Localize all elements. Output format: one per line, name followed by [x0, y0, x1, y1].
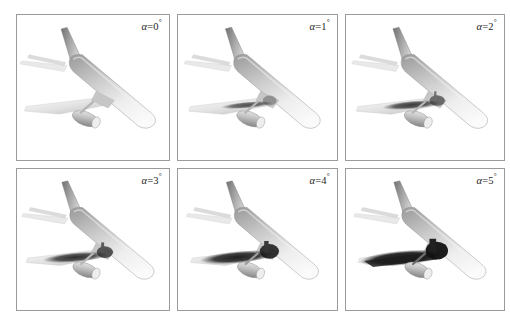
aircraft-geometry: [178, 169, 337, 310]
degree-sign: °: [327, 18, 330, 27]
far-wing-group: [352, 55, 399, 72]
panel-label-alpha-4: α=4°: [310, 172, 331, 186]
panel-alpha-2: α=2°: [345, 14, 505, 161]
aircraft-geometry: [346, 169, 504, 310]
degree-sign: °: [494, 18, 497, 27]
panel-alpha-3: α=3°: [16, 168, 170, 311]
degree-sign: °: [159, 172, 162, 181]
wing-body-junction-shock: [263, 96, 277, 106]
panel-label-alpha-0: α=0°: [142, 18, 163, 32]
far-wing-group: [20, 55, 67, 72]
panel-label-alpha-3: α=3°: [142, 172, 163, 186]
degree-sign: °: [494, 172, 497, 181]
panel-alpha-5: α=5°: [345, 168, 505, 311]
aircraft-geometry: [17, 169, 169, 310]
aircraft-geometry: [346, 15, 504, 160]
far-wing-group: [354, 208, 400, 224]
panel-alpha-4: α=4°: [177, 168, 338, 311]
panel-alpha-0: α=0°: [16, 14, 170, 161]
far-wing-group: [184, 55, 231, 72]
cfd-panel-figure: α=0°: [0, 0, 510, 328]
panel-label-alpha-1: α=1°: [310, 18, 331, 32]
aircraft-render-alpha-1: [178, 15, 337, 160]
far-wing-group: [186, 208, 232, 224]
panel-label-alpha-5: α=5°: [477, 172, 498, 186]
aircraft-geometry: [17, 15, 169, 160]
aircraft-geometry: [178, 15, 337, 160]
aircraft-render-alpha-4: [178, 169, 337, 310]
panel-alpha-1: α=1°: [177, 14, 338, 161]
degree-sign: °: [327, 172, 330, 181]
aircraft-render-alpha-0: [17, 15, 169, 160]
degree-sign: °: [159, 18, 162, 27]
aircraft-render-alpha-5: [346, 169, 504, 310]
aircraft-render-alpha-2: [346, 15, 504, 160]
aircraft-render-alpha-3: [17, 169, 169, 310]
panel-label-alpha-2: α=2°: [477, 18, 498, 32]
far-wing-group: [22, 208, 68, 224]
